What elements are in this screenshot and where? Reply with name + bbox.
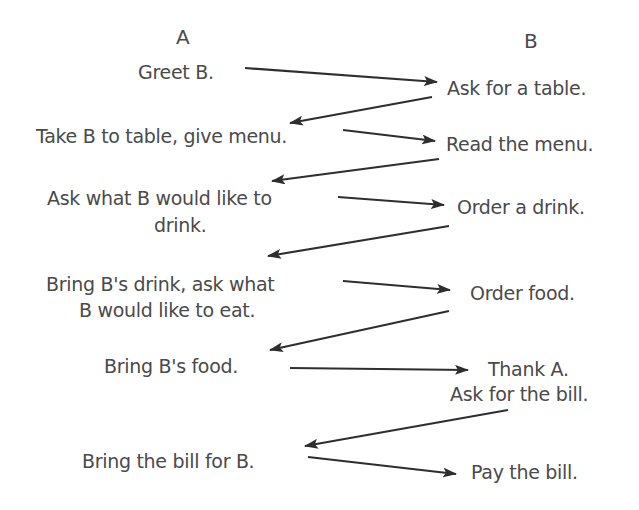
arrow-ask-bill-to-bring-bill — [305, 410, 508, 446]
arrow-bring-food-to-thank — [290, 368, 468, 370]
arrow-read-menu-to-ask-drink — [272, 159, 439, 181]
arrow-ask-table-to-take-table — [290, 97, 432, 123]
arrow-ask-drink-to-order-drink — [338, 197, 444, 205]
arrow-order-drink-to-bring-drink — [268, 226, 449, 256]
arrow-bring-bill-to-pay — [308, 457, 456, 474]
arrow-order-food-to-bring-food — [270, 311, 449, 350]
arrow-take-table-to-read-menu — [343, 130, 435, 141]
arrow-bring-drink-to-order-food — [343, 281, 450, 290]
arrows-layer — [0, 0, 639, 510]
arrow-greet-to-ask-table — [245, 68, 437, 82]
